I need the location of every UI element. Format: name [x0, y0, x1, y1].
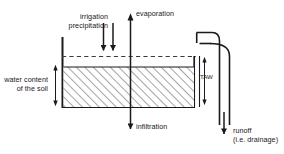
runoff-note-label: (i.e. drainage) — [233, 136, 278, 145]
precipitation-label: precipitation — [20, 22, 108, 31]
water-content-label-line2: of the soil — [0, 85, 48, 94]
evaporation-arrow — [128, 13, 134, 67]
soil-water-balance-diagram: irrigation precipitation evaporation wat… — [0, 0, 284, 154]
infiltration-label: infiltration — [136, 123, 167, 132]
water-content-measure-arrow — [53, 65, 57, 106]
taw-label: TAW — [200, 73, 213, 82]
evaporation-label: evaporation — [136, 10, 174, 19]
soil-body — [64, 67, 195, 107]
